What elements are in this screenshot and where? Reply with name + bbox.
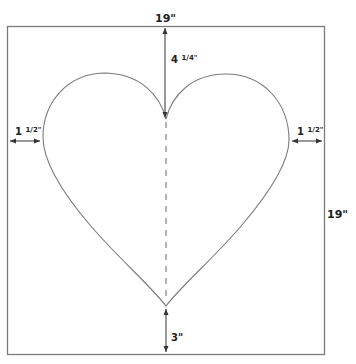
- top-gap-label: 4 1/4": [171, 54, 197, 65]
- top-width-label: 19": [155, 12, 176, 25]
- bottom-gap-label: 3": [171, 332, 183, 343]
- bottom-gap-arrow: [164, 309, 169, 352]
- right-gap-label: 1 1/2": [297, 126, 323, 137]
- left-gap-arrow: [10, 139, 40, 144]
- right-height-label: 19": [327, 208, 348, 221]
- right-gap-arrow: [292, 139, 322, 144]
- heart-template-diagram: 19" 4 1/4" 1 1/2" 1 1/2" 19" 3": [0, 0, 356, 364]
- top-gap-arrow: [163, 28, 168, 118]
- left-gap-label: 1 1/2": [15, 126, 41, 137]
